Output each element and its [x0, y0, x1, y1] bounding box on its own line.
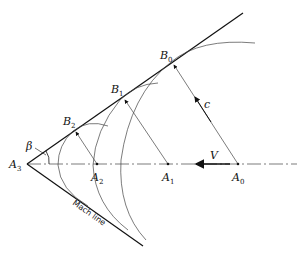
label-b0: B0 [159, 49, 173, 64]
label-a2: A2 [90, 171, 103, 186]
label-mach-line: Mach line [71, 198, 108, 227]
wavefront-a0 [121, 42, 255, 240]
label-beta: β [25, 140, 32, 153]
wavefront-a1 [93, 83, 158, 230]
label-velocity: V [210, 149, 219, 162]
label-c: c [204, 98, 210, 111]
point-a0 [237, 163, 240, 166]
mach-cone-diagram: A0 A1 A2 A3 B0 B1 B2 V c β Mach line [0, 0, 303, 256]
beta-angle-arc [46, 151, 49, 164]
label-a1: A1 [161, 171, 174, 186]
label-a0: A0 [231, 171, 244, 186]
label-a3: A3 [8, 158, 21, 173]
radius-a2-b2 [76, 132, 97, 164]
diagram-svg: A0 A1 A2 A3 B0 B1 B2 V c β Mach line [0, 0, 303, 256]
point-a2 [96, 163, 99, 166]
point-a1 [167, 163, 170, 166]
label-b2: B2 [62, 115, 76, 130]
label-b1: B1 [110, 83, 124, 98]
wavefront-a2 [58, 123, 108, 206]
radius-a1-b1 [125, 100, 168, 164]
